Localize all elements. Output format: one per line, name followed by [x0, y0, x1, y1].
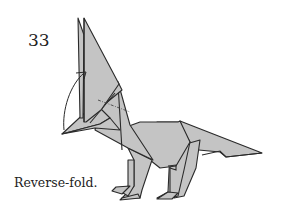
origami-wolf-diagram [0, 0, 281, 212]
